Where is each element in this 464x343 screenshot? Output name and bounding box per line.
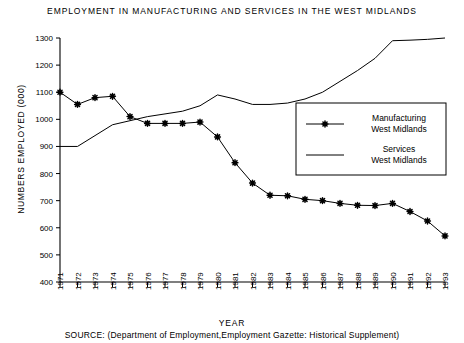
x-axis-tick-label: 1984 [284, 272, 293, 290]
y-axis-tick-label: 1200 [35, 61, 53, 70]
y-axis-tick-label: 700 [40, 197, 54, 206]
x-axis-tick-label: 1990 [389, 272, 398, 290]
y-axis-tick-label: 900 [40, 142, 54, 151]
data-point-marker [57, 89, 63, 95]
data-point-marker [407, 209, 413, 215]
data-point-marker [92, 95, 98, 101]
data-point-marker [337, 200, 343, 206]
x-axis-tick-label: 1971 [56, 272, 65, 290]
x-axis-tick-label: 1974 [109, 272, 118, 290]
y-axis-tick-label: 800 [40, 170, 54, 179]
x-axis-tick-label: 1983 [266, 272, 275, 290]
chart-container: EMPLOYMENT IN MANUFACTURING AND SERVICES… [0, 0, 464, 343]
data-point-marker [110, 93, 116, 99]
x-axis-tick-label: 1975 [126, 272, 135, 290]
x-axis-tick-label: 1979 [196, 272, 205, 290]
legend-label-services-line1: Services [383, 144, 416, 154]
data-point-marker [425, 218, 431, 224]
chart-plot-area: 4005006007008009001000110012001300197119… [0, 0, 464, 343]
data-point-marker [180, 121, 186, 127]
data-point-marker [267, 192, 273, 198]
data-point-marker [75, 102, 81, 108]
x-axis-tick-label: 1988 [354, 272, 363, 290]
data-point-marker [355, 202, 361, 208]
data-point-marker [302, 196, 308, 202]
data-point-marker [442, 233, 448, 239]
y-axis-tick-label: 1000 [35, 115, 53, 124]
y-axis-tick-label: 500 [40, 251, 54, 260]
y-axis-tick-label: 400 [40, 278, 54, 287]
x-axis-tick-label: 1973 [91, 272, 100, 290]
data-point-marker [285, 193, 291, 199]
x-axis-tick-label: 1985 [301, 272, 310, 290]
legend-marker-manufacturing [322, 121, 328, 127]
legend-label-services-line2: West Midlands [371, 155, 427, 165]
x-axis-tick-label: 1978 [179, 272, 188, 290]
x-axis-tick-label: 1977 [161, 272, 170, 290]
data-point-marker [372, 203, 378, 209]
data-point-marker [197, 119, 203, 125]
y-axis-tick-label: 600 [40, 224, 54, 233]
x-axis-tick-label: 1987 [336, 272, 345, 290]
x-axis-tick-label: 1986 [319, 272, 328, 290]
x-axis-tick-label: 1992 [424, 272, 433, 290]
legend-label-manufacturing-line2: West Midlands [371, 124, 427, 134]
x-axis-tick-label: 1991 [406, 272, 415, 290]
data-point-marker [232, 160, 238, 166]
data-point-marker [320, 198, 326, 204]
x-axis-tick-label: 1989 [371, 272, 380, 290]
data-point-marker [127, 114, 133, 120]
x-axis-tick-label: 1993 [441, 272, 450, 290]
data-point-marker [215, 134, 221, 140]
legend-label-manufacturing-line1: Manufacturing [372, 113, 426, 123]
data-point-marker [390, 200, 396, 206]
data-point-marker [145, 121, 151, 127]
x-axis-tick-label: 1976 [144, 272, 153, 290]
y-axis-tick-label: 1300 [35, 34, 53, 43]
y-axis-tick-label: 1100 [36, 88, 54, 97]
x-axis-tick-label: 1981 [231, 272, 240, 290]
x-axis-tick-label: 1980 [214, 272, 223, 290]
data-point-marker [250, 180, 256, 186]
x-axis-tick-label: 1972 [74, 272, 83, 290]
x-axis-tick-label: 1982 [249, 272, 258, 290]
data-point-marker [162, 121, 168, 127]
